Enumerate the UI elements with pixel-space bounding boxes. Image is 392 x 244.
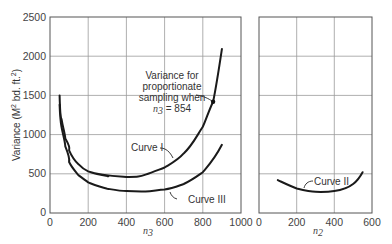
x2-tick-200: 200	[288, 216, 306, 228]
x2-tick-400: 400	[326, 216, 344, 228]
y-tick-2500: 2500	[23, 11, 47, 23]
curve-ii-label: Curve II	[314, 176, 349, 187]
x3-tick-0: 0	[47, 216, 53, 228]
proportionate-sampling-point	[211, 100, 215, 104]
left-panel: Variance for proportionate sampling when…	[10, 11, 253, 238]
x3-tick-1000: 1000	[229, 216, 253, 228]
x2-tick-0: 0	[256, 216, 262, 228]
y-tick-0: 0	[40, 206, 46, 218]
left-plot-frame	[50, 17, 241, 213]
x3-tick-400: 400	[118, 216, 136, 228]
annotation-line-3: sampling when	[139, 92, 206, 103]
curve-i-line	[60, 49, 222, 177]
curve-i-label: Curve I	[131, 142, 163, 153]
curve-iii-leader	[170, 192, 177, 199]
right-panel: Curve II 0 200 400 600 n2	[256, 17, 381, 238]
curve-iii-label: Curve III	[188, 194, 226, 205]
x2-tick-600: 600	[363, 216, 381, 228]
annotation-line-4: n3 = 854	[153, 103, 192, 116]
x3-tick-800: 800	[194, 216, 212, 228]
y-axis-label: Variance (M2 bd. ft.2)	[10, 69, 22, 161]
curve-ii-leader	[304, 181, 313, 188]
y-tick-2000: 2000	[23, 50, 47, 62]
annotation-line-1: Variance for	[145, 70, 199, 81]
x3-tick-200: 200	[79, 216, 97, 228]
y-tick-500: 500	[28, 167, 46, 179]
figure: Variance for proportionate sampling when…	[0, 0, 392, 244]
annotation-line-2: proportionate	[143, 81, 202, 92]
x3-tick-600: 600	[156, 216, 174, 228]
y-tick-1500: 1500	[23, 89, 47, 101]
y-tick-1000: 1000	[23, 128, 47, 140]
x-axis-label-n2: n2	[313, 225, 323, 238]
annotation-value: = 854	[163, 103, 192, 114]
x-axis-label-n3: n3	[143, 225, 153, 238]
